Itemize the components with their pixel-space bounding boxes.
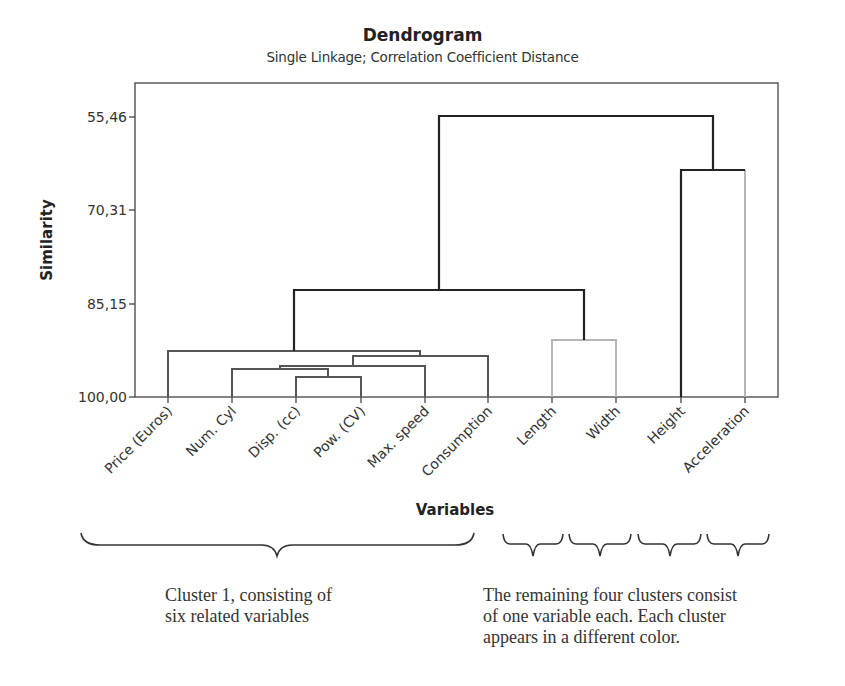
leaf-label-price: Price (Euros) (101, 403, 175, 477)
other-clusters-note: The remaining four clusters consist of o… (483, 585, 737, 648)
cluster-1-note-line: six related variables (165, 606, 332, 627)
other-clusters-note-line: appears in a different color. (483, 627, 737, 648)
leaf-label-disp: Disp. (cc) (245, 403, 303, 461)
cluster-1-branches (168, 351, 488, 397)
y-tick-label: 100,00 (78, 389, 127, 405)
leaf-label-length: Length (514, 403, 559, 448)
x-axis-ticks (168, 397, 745, 403)
cluster-1-brace (81, 533, 474, 556)
cluster-1-note: Cluster 1, consisting of six related var… (165, 585, 332, 627)
main-branches (294, 116, 745, 397)
y-tick-label: 55,46 (87, 109, 127, 125)
leaf-label-max-speed: Max. speed (364, 403, 432, 471)
other-clusters-note-line: of one variable each. Each cluster (483, 606, 737, 627)
cluster-length-width-branches (552, 340, 616, 397)
x-axis-title: Variables (416, 501, 495, 519)
y-axis-title: Similarity (38, 199, 56, 281)
leaf-label-acceleration: Acceleration (679, 403, 752, 476)
cluster-1-note-line: Cluster 1, consisting of (165, 585, 332, 606)
dendrogram-plot: 55,46 70,31 85,15 100,00 Similarity Pric… (0, 0, 845, 686)
leaf-label-width: Width (583, 403, 623, 443)
other-clusters-note-line: The remaining four clusters consist (483, 585, 737, 606)
leaf-label-num-cyl: Num. Cyl (183, 403, 239, 459)
y-tick-label: 70,31 (87, 202, 127, 218)
leaf-label-height: Height (644, 402, 688, 446)
y-tick-label: 85,15 (87, 296, 127, 312)
single-cluster-braces (503, 534, 769, 556)
y-axis (129, 117, 135, 397)
leaf-label-pow: Pow. (CV) (310, 403, 368, 461)
